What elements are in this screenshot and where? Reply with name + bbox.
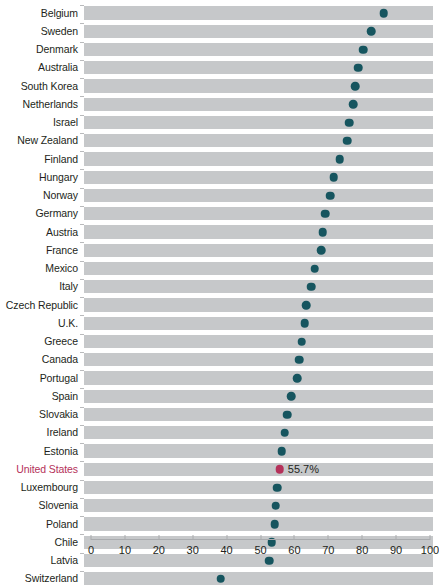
row-track — [84, 369, 433, 387]
row-tick-stub — [80, 151, 84, 152]
x-axis-tick — [124, 535, 125, 540]
data-point — [321, 210, 330, 219]
x-axis-tick — [328, 535, 329, 540]
row-tick-stub — [80, 461, 84, 462]
row-label-u-k: U.K. — [0, 318, 84, 329]
row-band — [84, 262, 433, 275]
data-point — [295, 356, 304, 365]
chart-row: France — [0, 241, 433, 259]
chart-row: Greece — [0, 333, 433, 351]
row-label-france: France — [0, 245, 84, 256]
data-point — [310, 264, 319, 273]
row-label-sweden: Sweden — [0, 26, 84, 37]
row-tick-stub — [80, 334, 84, 335]
x-axis-tick — [430, 535, 431, 540]
row-track: 55.7% — [84, 460, 433, 478]
row-label-united-states: United States — [0, 464, 84, 475]
row-label-mexico: Mexico — [0, 263, 84, 274]
row-track — [84, 424, 433, 442]
chart-row: Denmark — [0, 41, 433, 59]
row-label-norway: Norway — [0, 190, 84, 201]
data-point — [297, 337, 306, 346]
data-point — [354, 64, 363, 73]
row-track — [84, 168, 433, 186]
row-track — [84, 205, 433, 223]
x-axis-tick-label: 90 — [390, 544, 402, 556]
chart-row: Ireland — [0, 424, 433, 442]
x-axis: 0102030405060708090100 — [84, 539, 433, 540]
row-tick-stub — [80, 5, 84, 6]
x-axis-tick-label: 100 — [421, 544, 439, 556]
data-point — [271, 502, 280, 511]
row-band — [84, 98, 433, 111]
row-band — [84, 426, 433, 439]
row-tick-stub — [80, 23, 84, 24]
row-label-austria: Austria — [0, 227, 84, 238]
chart-row: Belgium — [0, 4, 433, 22]
row-label-poland: Poland — [0, 519, 84, 530]
row-tick-stub — [80, 261, 84, 262]
x-axis-tick — [158, 535, 159, 540]
data-point — [302, 301, 311, 310]
row-label-chile: Chile — [0, 537, 84, 548]
row-tick-stub — [80, 553, 84, 554]
row-label-israel: Israel — [0, 117, 84, 128]
row-tick-stub — [80, 425, 84, 426]
row-tick-stub — [80, 78, 84, 79]
row-tick-stub — [80, 242, 84, 243]
row-tick-stub — [80, 370, 84, 371]
data-point — [270, 520, 279, 529]
data-point — [277, 447, 286, 456]
row-band — [84, 152, 433, 165]
row-label-belgium: Belgium — [0, 8, 84, 19]
row-track — [84, 479, 433, 497]
data-point — [317, 246, 326, 255]
data-point — [329, 173, 338, 182]
chart-row: New Zealand — [0, 132, 433, 150]
row-track — [84, 59, 433, 77]
row-label-finland: Finland — [0, 154, 84, 165]
row-band — [84, 244, 433, 257]
row-track — [84, 260, 433, 278]
chart-row: Hungary — [0, 168, 433, 186]
row-track — [84, 442, 433, 460]
row-label-spain: Spain — [0, 391, 84, 402]
row-track — [84, 351, 433, 369]
row-band — [84, 335, 433, 348]
row-label-germany: Germany — [0, 208, 84, 219]
x-axis-tick-label: 70 — [322, 544, 334, 556]
row-band — [84, 61, 433, 74]
row-track — [84, 333, 433, 351]
row-label-south-korea: South Korea — [0, 81, 84, 92]
row-band — [84, 43, 433, 56]
row-label-netherlands: Netherlands — [0, 99, 84, 110]
data-point — [307, 283, 316, 292]
row-tick-stub — [80, 133, 84, 134]
row-track — [84, 77, 433, 95]
row-band — [84, 317, 433, 330]
row-band — [84, 517, 433, 530]
row-band — [84, 572, 433, 585]
row-band — [84, 353, 433, 366]
x-axis-tick-label: 80 — [356, 544, 368, 556]
chart-row: Netherlands — [0, 95, 433, 113]
row-track — [84, 22, 433, 40]
chart-row: Mexico — [0, 260, 433, 278]
row-track — [84, 278, 433, 296]
x-axis-tick-label: 10 — [119, 544, 131, 556]
chart-row: Switzerland — [0, 570, 433, 588]
row-band — [84, 171, 433, 184]
x-axis-tick-label: 30 — [187, 544, 199, 556]
row-tick-stub — [80, 96, 84, 97]
chart-row: Israel — [0, 114, 433, 132]
row-band — [84, 371, 433, 384]
chart-row: Sweden — [0, 22, 433, 40]
row-tick-stub — [80, 169, 84, 170]
row-label-switzerland: Switzerland — [0, 573, 84, 584]
row-label-ireland: Ireland — [0, 427, 84, 438]
row-tick-stub — [80, 115, 84, 116]
row-tick-stub — [80, 407, 84, 408]
row-track — [84, 296, 433, 314]
row-tick-stub — [80, 388, 84, 389]
row-tick-stub — [80, 443, 84, 444]
